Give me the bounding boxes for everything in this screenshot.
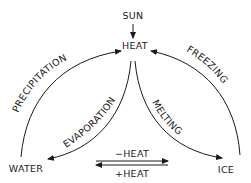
heat-label: HEAT	[122, 40, 148, 51]
minus-heat-label: −HEAT	[115, 148, 149, 159]
plus-heat-label: +HEAT	[115, 168, 149, 179]
precipitation-label: PRECIPITATION	[10, 52, 69, 114]
melting-label: MELTING	[150, 98, 185, 137]
sun-label: SUN	[123, 10, 144, 21]
ice-label: ICE	[218, 164, 234, 175]
freezing-arrow	[151, 51, 240, 155]
water-cycle-diagram: SUN HEAT WATER ICE PRECIPITATION FREEZIN…	[0, 0, 251, 183]
melting-arrow	[135, 61, 222, 158]
water-label: WATER	[9, 163, 44, 174]
